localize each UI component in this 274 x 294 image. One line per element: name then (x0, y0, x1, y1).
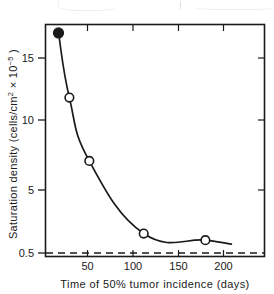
y-axis-title-sup-minus5: −5 (6, 56, 15, 65)
data-point-open (85, 157, 94, 166)
y-axis-title-main: Saturation density (cells/cm (7, 96, 19, 239)
y-tick-label-15: 15 (22, 52, 34, 64)
x-tick-label-150: 150 (169, 260, 187, 272)
x-axis-tick-labels: 50 100 150 200 (81, 260, 232, 272)
right-tick-marks (258, 58, 265, 190)
x-tick-label-50: 50 (81, 260, 93, 272)
x-tick-label-200: 200 (214, 260, 232, 272)
chart-svg: 15 10 5 0.5 50 100 150 200 Time of 50% t… (0, 0, 274, 294)
x-tick-label-100: 100 (124, 260, 142, 272)
figure-container: 15 10 5 0.5 50 100 150 200 Time of 50% t… (0, 0, 274, 294)
data-point-open (65, 93, 74, 102)
data-point-open (139, 229, 148, 238)
plot-frame (46, 25, 265, 257)
y-axis-tick-labels: 15 10 5 0.5 (19, 52, 34, 259)
y-tick-label-0-5: 0.5 (19, 247, 34, 259)
data-curve (58, 33, 231, 244)
x-axis-title: Time of 50% tumor incidence (days) (60, 278, 249, 290)
data-point-filled (53, 28, 63, 38)
svg-text:Saturation density (cells/cm2: Saturation density (cells/cm2 × 10−5 ) (6, 49, 20, 239)
data-point-markers (53, 28, 209, 245)
left-tick-marks (38, 58, 46, 253)
data-point-open (201, 236, 210, 245)
y-tick-label-5: 5 (28, 184, 34, 196)
y-axis-title-mid: × 10 (7, 65, 19, 91)
y-axis-title: Saturation density (cells/cm2 × 10−5 ) (6, 49, 20, 239)
top-tick-marks (88, 25, 224, 32)
y-tick-label-10: 10 (22, 114, 34, 126)
y-axis-title-end: ) (7, 49, 19, 56)
